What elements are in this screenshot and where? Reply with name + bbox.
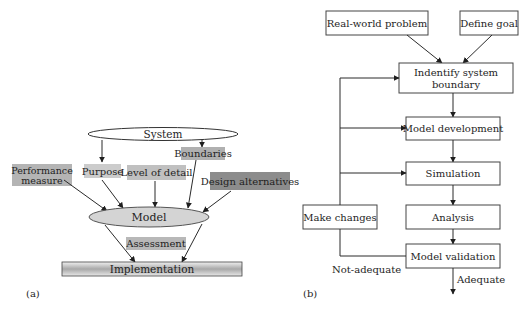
analysis-node: Analysis [406,205,500,229]
model-validation-node: Model validation [406,244,500,268]
model-development-label: Model development [403,123,503,134]
implementation-node: Implementation [62,262,242,276]
panel-a: System Boundaries Performance measure Pu… [11,128,299,300]
panel-b: Real-world problem Define goal Indentify… [303,11,518,299]
real-world-problem-label: Real-world problem [327,18,428,29]
model-node: Model [89,207,209,227]
real-world-problem-node: Real-world problem [326,11,428,35]
make-changes-label: Make changes [303,212,376,223]
performance-measure-node: Performance measure [11,164,73,186]
simulation-label: Simulation [426,168,481,179]
adequate-label: Adequate [456,274,505,285]
assessment-label: Assessment [125,238,186,249]
simulation-node: Simulation [406,162,500,185]
figure-canvas: System Boundaries Performance measure Pu… [0,0,528,312]
level-of-detail-label: Level of detail [120,167,192,178]
purpose-node: Purpose [82,164,124,178]
diagram-svg: System Boundaries Performance measure Pu… [0,0,528,312]
define-goal-node: Define goal [460,11,518,35]
arrow-purpose-model [102,180,123,208]
arrow-design-model [203,191,231,212]
line-validation-makechanges [340,229,406,256]
define-goal-label: Define goal [460,18,518,29]
make-changes-node: Make changes [303,205,377,229]
implementation-label: Implementation [110,263,195,275]
design-alternatives-node: Design alternatives [201,172,299,190]
caption-b: (b) [303,288,317,299]
arrow-goal-identify [463,35,492,63]
model-development-node: Model development [403,117,503,140]
model-label: Model [132,211,167,224]
not-adequate-label: Not-adequate [332,264,401,275]
caption-a: (a) [26,288,40,299]
model-validation-label: Model validation [410,251,496,262]
system-label: System [144,128,183,140]
performance-measure-label-2: measure [21,175,63,186]
assessment-node: Assessment [125,237,186,250]
design-alternatives-label: Design alternatives [201,176,299,187]
purpose-label: Purpose [82,166,124,177]
identify-label-2: boundary [432,79,480,90]
arrow-problem-identify [407,35,442,63]
boundaries-node: Boundaries [174,147,232,160]
arrow-performance-model [64,180,107,211]
boundaries-label: Boundaries [174,148,232,159]
identify-system-boundary-node: Indentify system boundary [399,63,513,93]
system-node: System [88,128,238,141]
identify-label-1: Indentify system [414,67,499,78]
analysis-label: Analysis [431,212,474,223]
level-of-detail-node: Level of detail [120,165,192,180]
